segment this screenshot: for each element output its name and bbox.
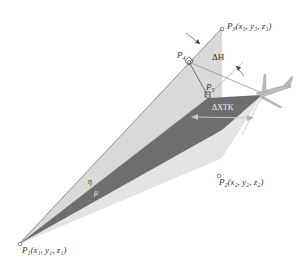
label-delta-h: ΔH: [212, 52, 225, 62]
point-p5-marker: [206, 94, 209, 97]
aircraft-icon: [256, 74, 293, 108]
label-p4: P4: [176, 50, 186, 61]
arrowhead-icon: [236, 66, 241, 71]
label-p3: P3(x₃, y₃, z₃): [226, 21, 271, 32]
label-eta: η: [88, 177, 92, 186]
arrowhead-icon: [195, 39, 200, 44]
label-delta-xtk: ΔXTK: [212, 103, 234, 112]
arrowhead-icon: [247, 115, 254, 121]
diagram-canvas: P3(x₃, y₃, z₃) P4 P5 P2(x₂, y₂, z₂) P1(x…: [0, 0, 307, 266]
point-p3-marker: [220, 27, 224, 31]
point-p4-marker: [187, 60, 190, 63]
label-mu: μ: [93, 188, 98, 197]
label-p2: P2(x₂, y₂, z₂): [218, 177, 263, 188]
label-p1: P1(x₁, y₁, z₁): [21, 245, 66, 256]
